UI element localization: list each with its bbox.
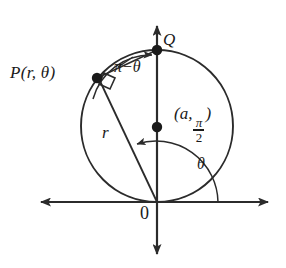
point-q-dot: [152, 45, 162, 55]
arc-theta: [137, 141, 218, 202]
point-p-label: P(r, θ): [10, 64, 55, 81]
origin-label: 0: [140, 204, 149, 222]
fraction-denominator: 2: [194, 131, 205, 145]
arc-angle-label: π−θ: [114, 59, 141, 75]
diagram-canvas: [0, 0, 286, 268]
center-label-fraction: π2: [193, 116, 204, 145]
center-label-close: ): [205, 104, 211, 123]
fraction-numerator: π: [194, 116, 205, 130]
theta-label: θ: [197, 156, 205, 172]
point-p-dot: [92, 73, 102, 83]
center-point-label: (a,π2): [174, 105, 211, 144]
center-point-dot: [152, 122, 162, 132]
center-label-open: (a,: [174, 104, 192, 123]
polar-circle-diagram: P(r, θ) Q π−θ r θ 0 (a,π2): [0, 0, 286, 268]
point-q-label: Q: [163, 31, 175, 48]
radius-label: r: [102, 124, 109, 141]
